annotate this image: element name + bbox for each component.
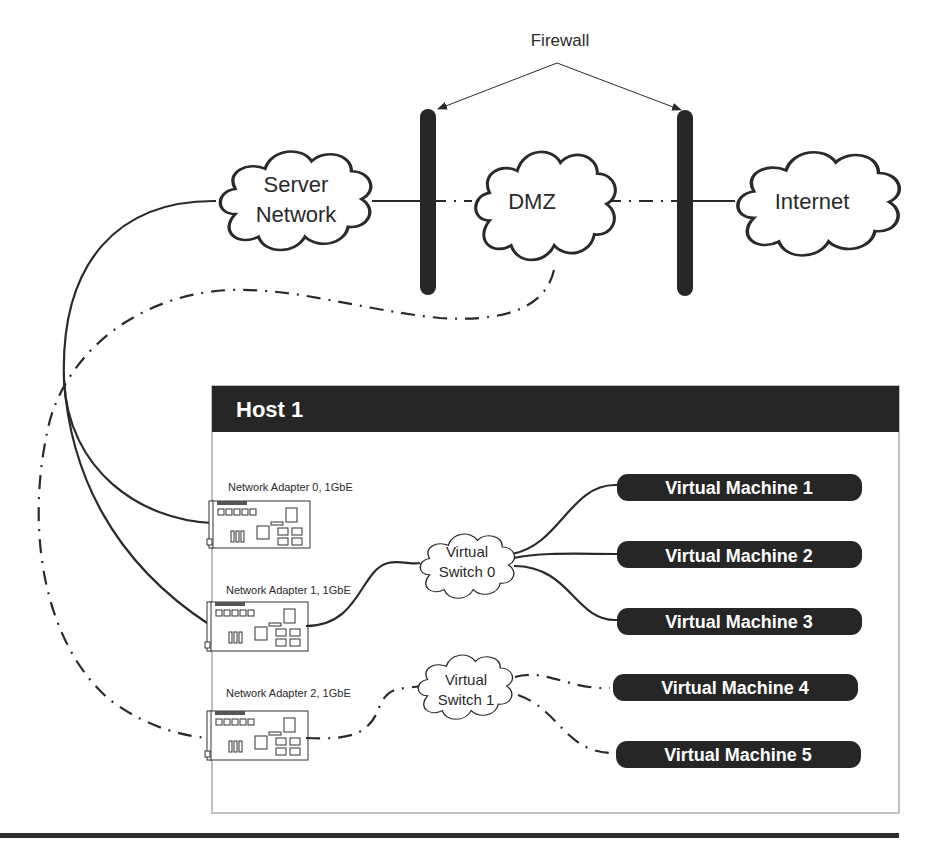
host-header xyxy=(212,386,899,432)
adapter-2-label: Network Adapter 2, 1GbE xyxy=(226,687,351,699)
vm-4: Virtual Machine 4 xyxy=(613,674,858,701)
firewall-bar-right xyxy=(677,110,693,296)
dmz-label: DMZ xyxy=(508,189,556,214)
wire-server-to-adapter0 xyxy=(64,201,216,523)
switch-0-line1: Virtual xyxy=(446,543,488,560)
adapter-1-label: Network Adapter 1, 1GbE xyxy=(226,584,351,596)
host-title: Host 1 xyxy=(236,397,303,422)
vm-3: Virtual Machine 3 xyxy=(617,608,862,635)
vm-3-label: Virtual Machine 3 xyxy=(665,612,813,632)
switch-1-line2: Switch 1 xyxy=(438,691,495,708)
network-diagram: Firewall Server Network DMZ Internet Hos… xyxy=(0,0,927,849)
bottom-divider xyxy=(0,833,899,838)
vm-2-label: Virtual Machine 2 xyxy=(665,546,813,566)
internet-label: Internet xyxy=(775,189,850,214)
vm-5-label: Virtual Machine 5 xyxy=(664,745,812,765)
nic-card-icon xyxy=(205,602,308,651)
internet-cloud: Internet xyxy=(738,152,899,255)
dmz-cloud: DMZ xyxy=(476,152,616,260)
vm-2: Virtual Machine 2 xyxy=(617,541,862,568)
server-network-line2: Network xyxy=(256,202,338,227)
firewall-annotation: Firewall xyxy=(438,31,681,110)
server-network-line1: Server xyxy=(264,172,329,197)
firewall-bar-left xyxy=(420,109,436,295)
server-network-cloud: Server Network xyxy=(220,151,371,250)
vm-4-label: Virtual Machine 4 xyxy=(661,678,809,698)
vm-5: Virtual Machine 5 xyxy=(616,741,861,768)
firewall-label: Firewall xyxy=(531,31,590,50)
firewall-arrow-right xyxy=(557,63,681,110)
adapter-0-label: Network Adapter 0, 1GbE xyxy=(228,481,353,493)
nic-card-icon xyxy=(207,501,310,548)
firewall-arrow-left xyxy=(438,63,557,109)
nic-card-icon xyxy=(205,711,308,760)
switch-1-line1: Virtual xyxy=(445,671,487,688)
vm-1: Virtual Machine 1 xyxy=(617,474,862,501)
vm-1-label: Virtual Machine 1 xyxy=(665,478,813,498)
switch-0-line2: Switch 0 xyxy=(439,563,496,580)
